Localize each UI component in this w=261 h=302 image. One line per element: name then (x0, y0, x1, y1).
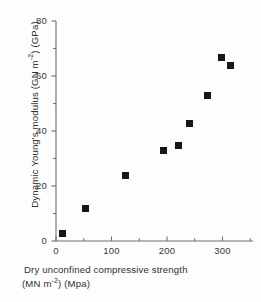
x-tick-label: 200 (155, 245, 179, 256)
y-axis-title: Dynamic Young's modulus (GN m-2) (GPa) (29, 15, 40, 215)
x-axis-title: Dry unconfined compressive strength (MN … (14, 263, 250, 291)
data-point-marker (121, 171, 130, 180)
y-axis-ticks (52, 21, 57, 241)
data-point-marker (159, 146, 168, 155)
x-tick-label: 100 (99, 245, 123, 256)
x-tick-label: 300 (210, 245, 234, 256)
data-point-marker (203, 91, 212, 100)
data-point-marker (185, 119, 194, 128)
data-point-marker (81, 204, 90, 213)
x-axis-title-line1: Dry unconfined compressive strength (14, 263, 250, 277)
data-point-marker (217, 53, 226, 62)
x-tick-label: 0 (44, 245, 68, 256)
data-point-marker (58, 229, 67, 238)
x-axis-title-prefix: (MN m (22, 278, 52, 289)
data-point-marker (174, 141, 183, 150)
x-axis-title-line2: (MN m-2) (Mpa) (14, 277, 250, 291)
y-axis-title-suffix: ) (GPa) (29, 21, 40, 54)
x-axis-title-suffix: ) (Mpa) (58, 278, 90, 289)
scatter-chart-figure: 020406080 0100200300 Dynamic Young's mod… (0, 0, 261, 302)
y-axis-title-prefix: Dynamic Young's modulus (GN m (29, 60, 40, 207)
x-axis-ticks (56, 237, 250, 242)
data-point-marker (226, 61, 235, 70)
y-axis-title-exponent: -2 (27, 54, 34, 61)
